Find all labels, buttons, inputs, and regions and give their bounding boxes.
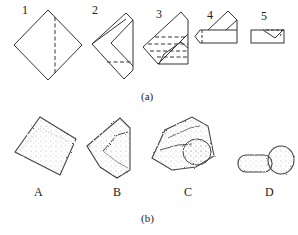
caption-b: (b) xyxy=(141,213,154,224)
sample-c-label: C xyxy=(184,186,192,198)
fold-step-1 xyxy=(14,10,82,80)
sample-d xyxy=(238,146,294,174)
sample-a-label: A xyxy=(34,186,43,198)
folding-diagram xyxy=(0,0,298,235)
step-1-label: 1 xyxy=(22,4,28,16)
sample-b-label: B xyxy=(113,186,121,198)
step-3-label: 3 xyxy=(156,8,162,20)
fold-step-4 xyxy=(195,11,237,43)
step-5-label: 5 xyxy=(261,10,267,22)
fold-step-5 xyxy=(251,30,284,43)
sample-a xyxy=(15,117,76,175)
step-4-label: 4 xyxy=(207,9,213,21)
sample-d-label: D xyxy=(265,186,274,198)
caption-a: (a) xyxy=(141,91,153,102)
sample-c xyxy=(152,117,214,170)
step-2-label: 2 xyxy=(92,4,98,16)
fold-step-2 xyxy=(92,13,133,79)
fold-step-3 xyxy=(143,12,188,64)
sample-b xyxy=(87,118,130,178)
